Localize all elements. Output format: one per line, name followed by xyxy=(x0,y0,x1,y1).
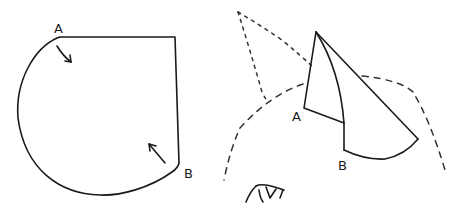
right-figure: A B xyxy=(292,32,418,173)
dashed-arc-left xyxy=(224,84,303,180)
eye-icon xyxy=(246,185,284,202)
arrow-icon-a xyxy=(57,46,71,62)
left-outline xyxy=(18,37,179,195)
cone-inner-fold xyxy=(316,32,344,150)
arrow-icon-b xyxy=(149,144,165,163)
left-figure: A B xyxy=(18,21,193,195)
dotted-line-upper xyxy=(238,12,312,66)
label-a-left: A xyxy=(54,21,63,36)
dotted-line-left-vertical xyxy=(238,12,268,102)
label-b-left: B xyxy=(184,166,193,181)
label-a-right: A xyxy=(292,109,301,124)
cone-bottom-arc xyxy=(344,139,418,159)
diagram-canvas: A B A B xyxy=(0,0,471,212)
label-b-right: B xyxy=(338,158,347,173)
right-guides xyxy=(224,12,445,180)
